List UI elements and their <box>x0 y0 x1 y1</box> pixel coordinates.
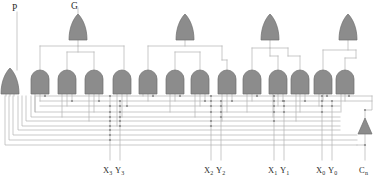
or-gate-p[interactable] <box>1 68 19 94</box>
label-g: G <box>71 2 78 12</box>
label-p: P <box>12 4 17 14</box>
and-gate-3[interactable] <box>85 70 103 94</box>
buffer-cn[interactable] <box>358 118 372 134</box>
label-x3y3: X3 Y3 <box>103 166 124 175</box>
and-gate-5[interactable] <box>139 70 157 94</box>
junction-dots <box>44 95 366 146</box>
or-gate-g2[interactable] <box>176 14 194 40</box>
and-gate-11[interactable] <box>291 70 309 94</box>
and-gate-8[interactable] <box>218 70 236 94</box>
and-gate-9[interactable] <box>243 70 261 94</box>
and-gate-2[interactable] <box>58 70 76 94</box>
and-gate-1[interactable] <box>31 70 49 94</box>
or-gate-g3[interactable] <box>69 14 87 40</box>
label-x2y2: X2 Y2 <box>204 166 225 175</box>
and-gate-7[interactable] <box>191 70 209 94</box>
and-gate-6[interactable] <box>166 70 184 94</box>
label-x1y1: X1 Y1 <box>268 166 289 175</box>
diagram-canvas: P G X3 Y3 X2 Y2 X1 Y1 X0 Y0 Cn <box>0 0 384 187</box>
or-gate-g0[interactable] <box>339 14 357 40</box>
circuit-svg <box>0 0 384 187</box>
and-gate-4[interactable] <box>113 70 131 94</box>
and-gate-10[interactable] <box>269 70 287 94</box>
label-x0y0: X0 Y0 <box>316 166 337 175</box>
or-gate-g1[interactable] <box>261 14 279 40</box>
and-gate-12[interactable] <box>314 70 332 94</box>
and-gate-13[interactable] <box>336 70 354 94</box>
label-cn: Cn <box>359 166 368 175</box>
